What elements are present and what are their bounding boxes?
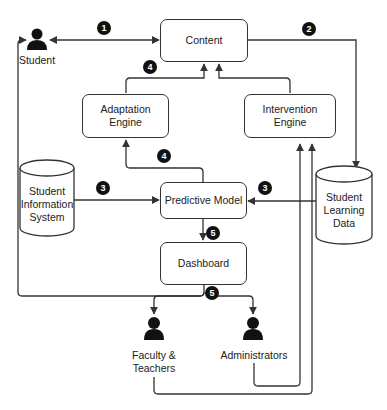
student-label: Student: [14, 54, 60, 67]
step-badge-2: 2: [302, 22, 316, 36]
student-actor-icon: [26, 28, 48, 50]
step-badge-5-dashboard: 5: [206, 226, 220, 240]
arrow-intervention-content: [219, 64, 290, 93]
step-badge-5-users: 5: [205, 286, 219, 300]
node-predictive-model: Predictive Model: [160, 182, 247, 219]
arrow-dashboard-faculty: [154, 292, 204, 314]
node-student-information-system: Student Information System: [20, 176, 74, 232]
step-badge-3-learning: 3: [258, 181, 272, 195]
step-badge-4-adaptation: 4: [143, 60, 157, 74]
node-predictive-model-label: Predictive Model: [165, 194, 243, 207]
cylinder-learning-top: [316, 166, 372, 182]
node-content: Content: [160, 19, 248, 62]
node-student-learning-data: Student Learning Data: [316, 182, 372, 238]
administrators-label: Administrators: [218, 349, 290, 362]
node-intervention-engine-label: Intervention Engine: [263, 103, 318, 129]
node-dashboard: Dashboard: [160, 242, 247, 285]
step-badge-1: 1: [97, 21, 111, 35]
step-badge-3-sis: 3: [96, 181, 110, 195]
node-sis-label: Student Information System: [21, 185, 74, 224]
node-adaptation-engine: Adaptation Engine: [82, 94, 169, 138]
node-content-label: Content: [186, 34, 223, 47]
node-intervention-engine: Intervention Engine: [244, 94, 336, 138]
node-adaptation-engine-label: Adaptation Engine: [100, 103, 150, 129]
node-learning-data-label: Student Learning Data: [324, 191, 365, 230]
arrow-adaptation-content: [126, 64, 204, 93]
cylinder-sis-top: [20, 160, 74, 176]
faculty-label: Faculty & Teachers: [124, 349, 184, 375]
faculty-actor-icon: [143, 316, 165, 340]
step-badge-4-predictive: 4: [157, 149, 171, 163]
node-dashboard-label: Dashboard: [178, 257, 229, 270]
diagram: Content Adaptation Engine Intervention E…: [0, 0, 387, 410]
administrators-actor-icon: [242, 316, 264, 340]
